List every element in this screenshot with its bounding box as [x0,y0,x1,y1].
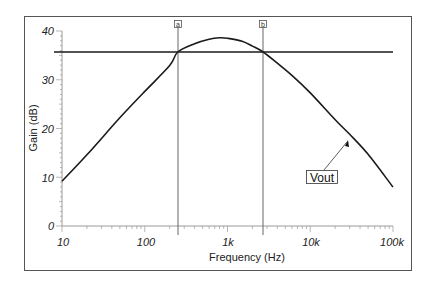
chart-frame [25,17,412,271]
y-tick-label-10: 10 [42,172,55,184]
y-tick-label-0: 0 [48,220,55,232]
x-tick-label-10k: 10k [302,236,320,248]
x-tick-label-100: 100 [137,236,156,248]
y-tick-label-30: 30 [42,74,55,86]
cursor-b-label: b [261,21,265,28]
x-tick-label-10: 10 [57,236,70,248]
cursor-a-label: a [176,21,180,28]
y-axis [56,31,62,226]
vout-label: Vout [310,171,335,185]
x-tick-label-1k: 1k [222,236,234,248]
vout-callout: Vout [307,140,350,185]
vout-series-line [62,38,393,187]
x-axis [62,226,393,232]
y-axis-title: Gain (dB) [27,104,39,151]
x-tick-label-100k: 100k [380,236,404,248]
x-axis-title: Frequency (Hz) [209,251,285,263]
bode-plot: 40 30 20 10 0 10 100 1k 10k 100k Gain (d… [0,0,436,289]
y-tick-label-40: 40 [42,25,55,37]
y-tick-label-20: 20 [41,123,55,135]
